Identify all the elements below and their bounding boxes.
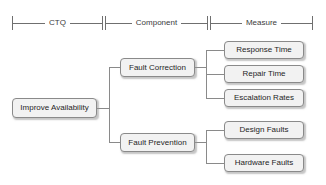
connector-fault-prevention-trunk (206, 130, 207, 163)
node-label: Response Time (236, 45, 292, 55)
node-improve-availability[interactable]: Improve Availability (12, 98, 97, 118)
connector-to-hardware-faults (206, 163, 224, 164)
scale-label-component: Component (132, 18, 181, 28)
connector-fault-correction-stub (195, 67, 206, 68)
connector-root-to-fault-prevention (109, 142, 120, 143)
node-label: Escalation Rates (234, 93, 294, 103)
node-hardware-faults[interactable]: Hardware Faults (224, 154, 304, 172)
scale-tick-right (312, 16, 313, 30)
scale-tick-left (105, 16, 106, 30)
connector-root-to-fault-correction (109, 67, 120, 68)
node-fault-correction[interactable]: Fault Correction (120, 58, 195, 77)
node-fault-prevention[interactable]: Fault Prevention (120, 133, 195, 152)
ctq-tree-diagram: CTQ Component Measure Improve Availabili… (0, 0, 326, 185)
node-label: Fault Prevention (128, 138, 186, 148)
node-response-time[interactable]: Response Time (224, 41, 304, 59)
scale-label-ctq: CTQ (45, 18, 70, 28)
node-label: Design Faults (240, 125, 289, 135)
scale-span-measure: Measure (210, 15, 313, 31)
connector-to-repair-time (206, 74, 224, 75)
scale-tick-left (12, 16, 13, 30)
node-escalation-rates[interactable]: Escalation Rates (224, 89, 304, 107)
node-repair-time[interactable]: Repair Time (224, 65, 304, 83)
node-label: Repair Time (242, 69, 285, 79)
node-design-faults[interactable]: Design Faults (224, 121, 304, 139)
node-label: Improve Availability (20, 103, 88, 113)
connector-to-escalation-rates (206, 98, 224, 99)
connector-fault-prevention-stub (195, 142, 206, 143)
scale-tick-right (102, 16, 103, 30)
scale-span-ctq: CTQ (12, 15, 103, 31)
node-label: Hardware Faults (235, 158, 294, 168)
scale-span-component: Component (105, 15, 208, 31)
scale-label-measure: Measure (242, 18, 281, 28)
connector-to-design-faults (206, 130, 224, 131)
connector-to-response-time (206, 50, 224, 51)
scale-tick-left (210, 16, 211, 30)
scale-tick-right (207, 16, 208, 30)
connector-root-stub (97, 108, 109, 109)
node-label: Fault Correction (129, 63, 186, 73)
connector-root-trunk (109, 67, 110, 143)
